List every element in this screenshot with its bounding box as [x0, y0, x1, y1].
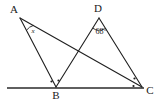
vertex-label-A: A [10, 3, 18, 15]
angle-tick-B-left [50, 80, 52, 82]
vertex-label-D: D [94, 2, 102, 14]
geometry-figure: A D B C x 68° [0, 0, 160, 105]
angle-tick-C-lower [132, 85, 134, 87]
angle-label-x: x [30, 27, 35, 35]
angle-label-68deg: 68° [95, 27, 106, 36]
angle-tick-B-right [57, 79, 59, 81]
geometry-canvas: A D B C x 68° [0, 0, 160, 105]
vertex-label-C: C [146, 84, 153, 96]
segment-DB [56, 18, 99, 87]
angle-tick-C-upper [133, 77, 135, 79]
vertex-label-B: B [52, 89, 59, 101]
